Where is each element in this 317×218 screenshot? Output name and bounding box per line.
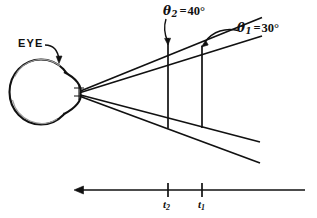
ray-lower-outer — [81, 97, 261, 164]
eye-angle-diagram: EYE θ2=40° θ1=30° t2 t1 — [0, 0, 317, 218]
theta1-value: 30° — [262, 21, 280, 35]
theta1-symbol: θ — [237, 21, 245, 35]
cornea-bulge — [64, 72, 81, 114]
axis-label-t1: t1 — [198, 199, 205, 212]
theta1-label: θ1=30° — [237, 22, 279, 36]
theta2-label: θ2=40° — [163, 5, 205, 19]
ray-upper-outer — [81, 18, 263, 92]
theta2-value: 40° — [188, 4, 206, 18]
time-axis-arrowhead — [74, 186, 84, 194]
axis-label-t2: t2 — [163, 199, 170, 212]
t1-subscript: 1 — [201, 203, 205, 212]
theta1-equals: = — [252, 21, 261, 35]
t2-subscript: 2 — [166, 203, 170, 212]
theta2-leader-arrowhead — [165, 38, 171, 45]
theta2-symbol: θ — [163, 4, 171, 18]
ray-lower-inner — [81, 95, 261, 142]
theta1-leader-line — [205, 29, 238, 42]
theta2-equals: = — [178, 4, 187, 18]
eye-label: EYE — [18, 38, 44, 49]
ray-upper-inner — [81, 36, 263, 93]
theta2-leader-line — [165, 19, 168, 41]
eye-leader-arrowhead — [56, 56, 62, 64]
